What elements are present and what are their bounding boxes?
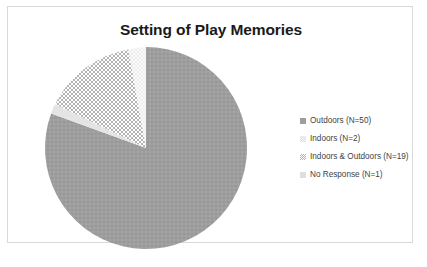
pie-chart-svg — [41, 43, 251, 253]
legend-swatch-indoors — [300, 136, 306, 142]
legend-item-indoors[interactable]: Indoors (N=2) — [300, 131, 424, 147]
legend-label-indoors: Indoors (N=2) — [310, 134, 360, 144]
legend-swatch-indoors-outdoors — [300, 154, 306, 160]
chart-legend: Outdoors (N=50) Indoors (N=2) Indoors & … — [300, 113, 424, 185]
legend-label-indoors-outdoors: Indoors & Outdoors (N=19) — [310, 152, 409, 162]
legend-label-no-response: No Response (N=1) — [310, 170, 383, 180]
legend-item-indoors-outdoors[interactable]: Indoors & Outdoors (N=19) — [300, 149, 424, 165]
chart-frame: Setting of Play Memories — [7, 6, 413, 243]
legend-swatch-no-response — [300, 172, 306, 178]
chart-title: Setting of Play Memories — [8, 21, 414, 39]
legend-swatch-outdoors — [300, 118, 306, 124]
pie-plot-area — [41, 43, 251, 253]
chart-screenshot: Setting of Play Memories — [0, 0, 427, 267]
legend-item-outdoors[interactable]: Outdoors (N=50) — [300, 113, 424, 129]
legend-label-outdoors: Outdoors (N=50) — [310, 116, 371, 126]
legend-item-no-response[interactable]: No Response (N=1) — [300, 167, 424, 183]
